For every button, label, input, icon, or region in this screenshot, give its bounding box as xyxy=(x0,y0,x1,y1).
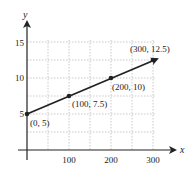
point-annotation: (300, 12.5) xyxy=(130,44,170,54)
data-point xyxy=(25,112,30,117)
x-tick-label: 100 xyxy=(62,155,76,165)
x-tick-label: 300 xyxy=(146,155,160,165)
data-point xyxy=(151,58,156,63)
x-tick-label: 200 xyxy=(104,155,118,165)
point-annotation: (100, 7.5) xyxy=(72,99,107,109)
x-axis-label: x xyxy=(179,144,185,155)
y-axis-label: y xyxy=(22,9,28,20)
data-point xyxy=(67,94,72,99)
data-point xyxy=(109,76,114,81)
grid xyxy=(27,40,155,150)
line-chart: x y 100 200 300 5 10 15 (0, 5) (100, 7.5… xyxy=(0,0,190,170)
y-tick-label: 15 xyxy=(15,38,25,48)
y-tick-label: 5 xyxy=(20,109,25,119)
point-annotation: (200, 10) xyxy=(112,82,145,92)
y-tick-label: 10 xyxy=(15,73,25,83)
point-annotation: (0, 5) xyxy=(30,118,50,128)
